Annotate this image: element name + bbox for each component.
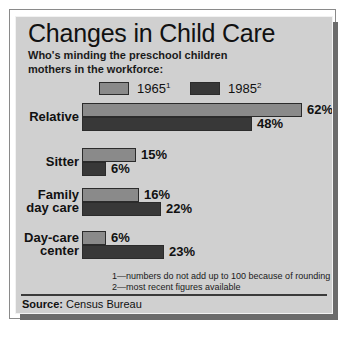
bar-value-label: 23% (169, 244, 195, 259)
bar-value-label: 16% (144, 187, 170, 202)
bar-1985 (82, 117, 252, 131)
legend-label-1985: 19852 (228, 81, 261, 96)
bar-1965 (82, 103, 302, 117)
legend-item-1985: 19852 (190, 80, 261, 96)
bar-value-label: 22% (166, 201, 192, 216)
bar-1965 (82, 188, 139, 202)
legend-item-1965: 19651 (99, 80, 170, 96)
bar-1965 (82, 148, 136, 162)
chart-subtitle: Who's minding the preschool children mot… (28, 49, 227, 76)
chart-title: Changes in Child Care (28, 19, 275, 48)
bar-1985 (82, 245, 164, 259)
legend-footnote-marker-1985: 2 (257, 80, 261, 89)
bar-group-label: Relative (16, 110, 79, 123)
bar-group-label: Sitter (16, 155, 79, 168)
chart-footnotes: 1—numbers do not add up to 100 because o… (112, 271, 330, 293)
bar-group-label: Family day care (16, 188, 79, 214)
source-line: Source: Census Bureau (22, 298, 142, 310)
bar-value-label: 6% (111, 161, 130, 176)
source-text: Census Bureau (63, 298, 142, 310)
legend-label-1985-text: 1985 (228, 81, 257, 96)
legend-label-1965: 19651 (137, 81, 170, 96)
bar-1985 (82, 202, 161, 216)
legend-swatch-1965 (99, 82, 129, 95)
bar-1985 (82, 162, 106, 176)
bar-group-label: Day-care center (16, 231, 79, 257)
chart-panel: Changes in Child Care Who's minding the … (15, 16, 333, 314)
bar-value-label: 62% (307, 102, 333, 117)
source-prefix: Source: (22, 298, 63, 310)
legend-label-1965-text: 1965 (137, 81, 166, 96)
chart-figure: Changes in Child Care Who's minding the … (0, 0, 349, 338)
plot-area: Relative62%48%Sitter15%6%Family day care… (16, 103, 333, 273)
legend-swatch-1985 (190, 82, 220, 95)
chart-legend: 19651 19852 (99, 80, 329, 98)
bar-value-label: 48% (257, 116, 283, 131)
legend-footnote-marker-1965: 1 (166, 80, 170, 89)
bar-1965 (82, 231, 106, 245)
bar-value-label: 15% (141, 147, 167, 162)
source-divider (21, 294, 327, 296)
bar-value-label: 6% (111, 230, 130, 245)
